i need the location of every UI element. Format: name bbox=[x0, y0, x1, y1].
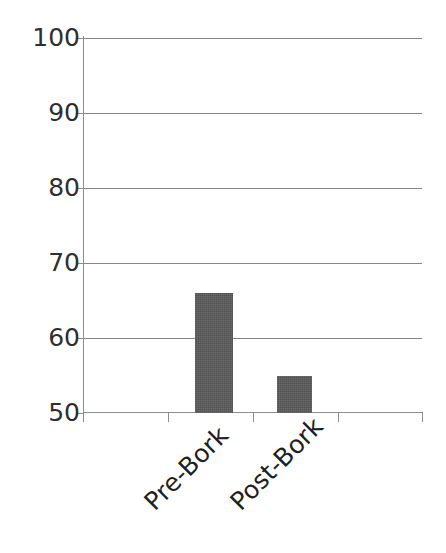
x-tick-mark-1 bbox=[168, 413, 169, 422]
bar-pre-bork bbox=[195, 293, 233, 413]
x-axis-label-pre-bork: Pre-Bork bbox=[140, 422, 233, 515]
y-axis-label-100: 100 bbox=[8, 25, 80, 50]
x-tick-mark-0 bbox=[83, 413, 84, 422]
gridline-80 bbox=[83, 188, 422, 189]
y-axis-label-60: 60 bbox=[8, 325, 80, 350]
gridline-90 bbox=[83, 113, 422, 114]
y-axis-label-70: 70 bbox=[8, 250, 80, 275]
y-axis-label-90: 90 bbox=[8, 100, 80, 125]
x-tick-mark-3 bbox=[338, 413, 339, 422]
plot-area bbox=[83, 38, 422, 413]
y-axis-label-50: 50 bbox=[8, 400, 80, 425]
gridline-70 bbox=[83, 263, 422, 264]
y-axis-label-80: 80 bbox=[8, 175, 80, 200]
x-axis-label-post-bork: Post-Bork bbox=[226, 413, 328, 515]
gridline-60 bbox=[83, 338, 422, 339]
x-tick-mark-2 bbox=[253, 413, 254, 422]
gridline-100 bbox=[83, 38, 422, 39]
x-tick-mark-4 bbox=[422, 413, 423, 422]
bar-chart: 100 90 80 70 60 50 Pre-Bork Post-Bork bbox=[0, 0, 446, 553]
bar-post-bork bbox=[277, 376, 312, 414]
